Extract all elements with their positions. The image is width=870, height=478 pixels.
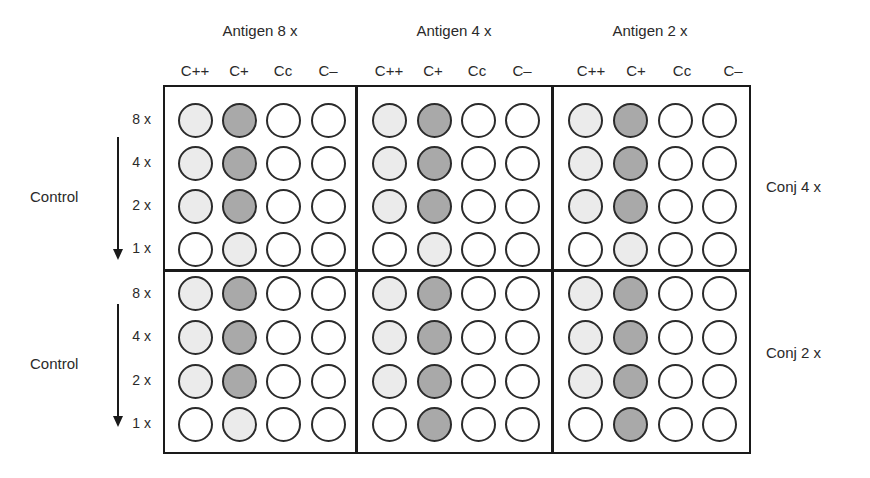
divider-horizontal xyxy=(163,269,751,272)
well-white xyxy=(505,146,540,181)
well-light xyxy=(372,320,407,355)
conjugate-label-bottom: Conj 2 x xyxy=(766,344,821,361)
well-dark xyxy=(613,146,648,181)
well-dark xyxy=(222,189,257,224)
control-label-top: Control xyxy=(30,188,78,205)
well-white xyxy=(178,407,213,442)
well-dark xyxy=(613,189,648,224)
well-dark xyxy=(417,320,452,355)
well-dark xyxy=(417,146,452,181)
well-white xyxy=(178,232,213,267)
well-white xyxy=(658,364,693,399)
well-white xyxy=(266,407,301,442)
antigen-group-title-3: Antigen 2 x xyxy=(553,22,747,39)
well-white xyxy=(702,189,737,224)
down-arrow-icon xyxy=(113,416,123,427)
well-white xyxy=(505,364,540,399)
antigen-group-title-2: Antigen 4 x xyxy=(357,22,551,39)
well-white xyxy=(658,407,693,442)
well-white xyxy=(702,276,737,311)
well-light xyxy=(178,320,213,355)
well-white xyxy=(702,364,737,399)
well-white xyxy=(461,103,496,138)
dilution-arrow-shaft xyxy=(117,137,119,250)
well-light xyxy=(372,189,407,224)
well-dark xyxy=(222,320,257,355)
well-white xyxy=(702,103,737,138)
well-white xyxy=(505,232,540,267)
well-dark xyxy=(222,276,257,311)
row-label: 1 x xyxy=(121,240,151,256)
well-white xyxy=(311,407,346,442)
column-label: Cc xyxy=(660,62,704,79)
well-white xyxy=(311,364,346,399)
well-white xyxy=(658,320,693,355)
well-white xyxy=(505,103,540,138)
well-white xyxy=(568,407,603,442)
well-white xyxy=(266,364,301,399)
well-white xyxy=(372,232,407,267)
well-light xyxy=(568,146,603,181)
column-label: C+ xyxy=(411,62,455,79)
well-white xyxy=(702,407,737,442)
well-dark xyxy=(417,364,452,399)
well-light xyxy=(178,364,213,399)
well-white xyxy=(658,103,693,138)
well-white xyxy=(311,103,346,138)
well-white xyxy=(311,189,346,224)
well-dark xyxy=(417,407,452,442)
well-light xyxy=(222,232,257,267)
row-label: 4 x xyxy=(121,328,151,344)
well-white xyxy=(266,232,301,267)
well-light xyxy=(417,232,452,267)
well-light xyxy=(568,276,603,311)
column-label: C– xyxy=(500,62,544,79)
column-label: C– xyxy=(711,62,755,79)
well-white xyxy=(266,103,301,138)
well-white xyxy=(266,146,301,181)
well-dark xyxy=(417,103,452,138)
well-white xyxy=(505,189,540,224)
well-white xyxy=(266,320,301,355)
well-dark xyxy=(222,103,257,138)
well-white xyxy=(266,189,301,224)
row-label: 8 x xyxy=(121,285,151,301)
well-light xyxy=(178,103,213,138)
well-white xyxy=(461,189,496,224)
control-label-bottom: Control xyxy=(30,355,78,372)
well-light xyxy=(372,364,407,399)
well-light xyxy=(568,364,603,399)
well-white xyxy=(702,146,737,181)
well-light xyxy=(568,189,603,224)
well-white xyxy=(461,146,496,181)
well-white xyxy=(461,364,496,399)
well-white xyxy=(658,146,693,181)
row-label: 2 x xyxy=(121,197,151,213)
well-dark xyxy=(222,364,257,399)
well-white xyxy=(311,276,346,311)
well-light xyxy=(372,146,407,181)
well-white xyxy=(702,232,737,267)
row-label: 8 x xyxy=(121,111,151,127)
well-light xyxy=(178,189,213,224)
well-dark xyxy=(417,276,452,311)
well-light xyxy=(568,320,603,355)
well-light xyxy=(178,146,213,181)
well-dark xyxy=(613,407,648,442)
well-light xyxy=(372,276,407,311)
column-label: Cc xyxy=(261,62,305,79)
well-dark xyxy=(613,320,648,355)
column-label: C+ xyxy=(614,62,658,79)
well-light xyxy=(372,103,407,138)
column-label: C– xyxy=(306,62,350,79)
row-label: 2 x xyxy=(121,372,151,388)
well-white xyxy=(461,232,496,267)
well-white xyxy=(658,189,693,224)
well-white xyxy=(266,276,301,311)
well-light xyxy=(613,232,648,267)
row-label: 4 x xyxy=(121,154,151,170)
antigen-group-title-1: Antigen 8 x xyxy=(163,22,357,39)
well-white xyxy=(311,320,346,355)
well-light xyxy=(178,276,213,311)
dilution-arrow-shaft xyxy=(117,304,119,417)
